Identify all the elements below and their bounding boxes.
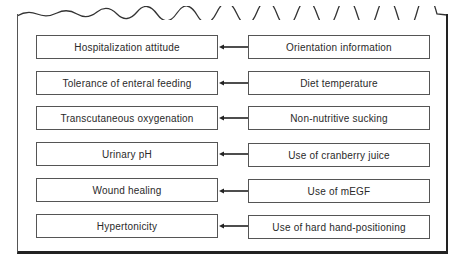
- arrow-left-icon: [219, 114, 248, 122]
- outcome-label: Tolerance of enteral feeding: [62, 78, 191, 89]
- intervention-box: Use of mEGF: [248, 179, 430, 203]
- intervention-label: Use of hard hand-positioning: [272, 222, 405, 233]
- outcome-box: Hypertonicity: [36, 214, 218, 238]
- intervention-label: Use of cranberry juice: [288, 150, 390, 161]
- outcome-box: Urinary pH: [36, 142, 218, 166]
- intervention-label: Orientation information: [286, 42, 392, 53]
- arrow-left-icon: [219, 187, 248, 195]
- outcome-box: Tolerance of enteral feeding: [36, 71, 218, 95]
- outcome-box: Wound healing: [36, 178, 218, 202]
- arrow-left-icon: [219, 150, 248, 158]
- arrow-left-icon: [219, 43, 248, 51]
- outcome-label: Wound healing: [92, 185, 161, 196]
- outcome-box: Transcutaneous oxygenation: [36, 106, 218, 130]
- intervention-box: Orientation information: [248, 35, 430, 59]
- intervention-box: Use of hard hand-positioning: [248, 215, 430, 239]
- outcome-label: Hypertonicity: [97, 221, 157, 232]
- arrow-left-icon: [219, 222, 248, 230]
- intervention-box: Use of cranberry juice: [248, 143, 430, 167]
- outcome-label: Transcutaneous oxygenation: [60, 113, 193, 124]
- intervention-label: Use of mEGF: [308, 186, 371, 197]
- intervention-box: Diet temperature: [248, 71, 430, 95]
- intervention-label: Non-nutritive sucking: [290, 113, 388, 124]
- intervention-box: Non-nutritive sucking: [248, 106, 430, 130]
- arrow-left-icon: [219, 79, 248, 87]
- outcome-box: Hospitalization attitude: [36, 35, 218, 59]
- outcome-label: Urinary pH: [102, 149, 152, 160]
- intervention-label: Diet temperature: [300, 78, 378, 89]
- outcome-label: Hospitalization attitude: [74, 42, 179, 53]
